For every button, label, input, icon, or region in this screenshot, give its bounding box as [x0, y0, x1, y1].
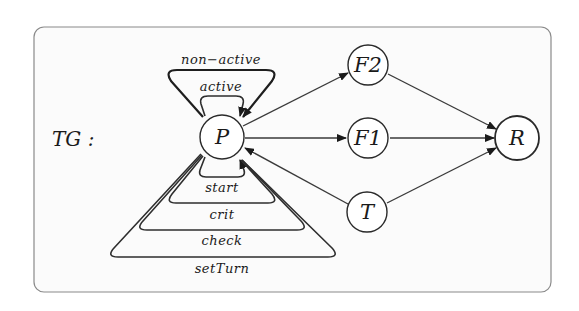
node-F1: F1 — [348, 118, 388, 158]
node-F2-label: F2 — [353, 53, 382, 77]
node-R-label: R — [508, 126, 525, 150]
node-R: R — [495, 116, 539, 160]
transition-graph-diagram: TG : non−active active start crit check … — [0, 0, 579, 311]
label-crit: crit — [210, 207, 235, 222]
node-P: P — [200, 115, 244, 159]
node-F2: F2 — [348, 45, 388, 85]
node-P-label: P — [214, 125, 230, 149]
graph-label: TG : — [52, 127, 94, 151]
label-start: start — [205, 180, 239, 195]
node-T: T — [347, 192, 387, 232]
node-F1-label: F1 — [353, 126, 382, 150]
label-active: active — [200, 79, 242, 94]
label-check: check — [201, 233, 242, 248]
label-non-active: non−active — [181, 52, 261, 67]
label-setTurn: setTurn — [195, 261, 250, 276]
node-T-label: T — [360, 200, 376, 224]
